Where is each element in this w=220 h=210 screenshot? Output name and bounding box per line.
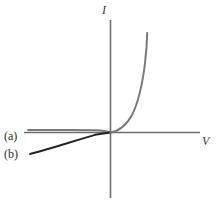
y-axis-label: I: [102, 4, 106, 16]
curve-b-path: [30, 133, 111, 155]
iv-characteristic-figure: I V (a) (b): [0, 0, 220, 210]
curve-a-label: (a): [4, 130, 17, 142]
curve-b-label: (b): [4, 148, 18, 160]
x-axis-label: V: [202, 135, 209, 147]
plot-canvas: [0, 0, 220, 210]
curve-forward-path: [111, 33, 148, 133]
